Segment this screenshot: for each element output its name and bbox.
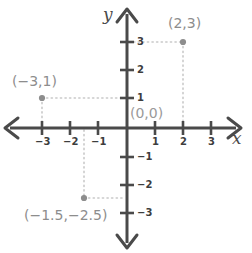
y-tick-label-neg2: −2 <box>137 180 152 190</box>
point-label-neg15-neg25: (−1.5,−2.5) <box>24 208 107 222</box>
point-neg3-1 <box>39 95 45 101</box>
x-tick-label-neg2: −2 <box>63 137 78 147</box>
y-axis-label: y <box>103 6 113 23</box>
x-tick-label-3: 3 <box>208 137 215 147</box>
x-tick-label-neg1: −1 <box>91 137 106 147</box>
y-tick-label-neg3: −3 <box>137 208 152 218</box>
x-axis-label: x <box>232 130 242 147</box>
y-tick-label-1: 1 <box>137 93 144 103</box>
point-label-2-3: (2,3) <box>168 16 201 30</box>
y-tick-label-neg1: −1 <box>137 152 152 162</box>
x-tick-label-2: 2 <box>180 137 187 147</box>
plotted-points <box>39 39 186 201</box>
point-neg15-neg25 <box>81 195 87 201</box>
coordinate-plane-figure: y x −3 −2 −1 1 2 3 3 2 1 −1 −2 −3 (2,3) … <box>0 0 252 253</box>
x-tick-label-neg3: −3 <box>35 137 50 147</box>
origin-label: (0,0) <box>130 106 163 120</box>
x-tick-label-1: 1 <box>152 137 159 147</box>
y-tick-label-3: 3 <box>137 37 144 47</box>
point-label-neg3-1: (−3,1) <box>12 74 57 88</box>
y-tick-label-2: 2 <box>137 65 144 75</box>
point-2-3 <box>180 39 186 45</box>
